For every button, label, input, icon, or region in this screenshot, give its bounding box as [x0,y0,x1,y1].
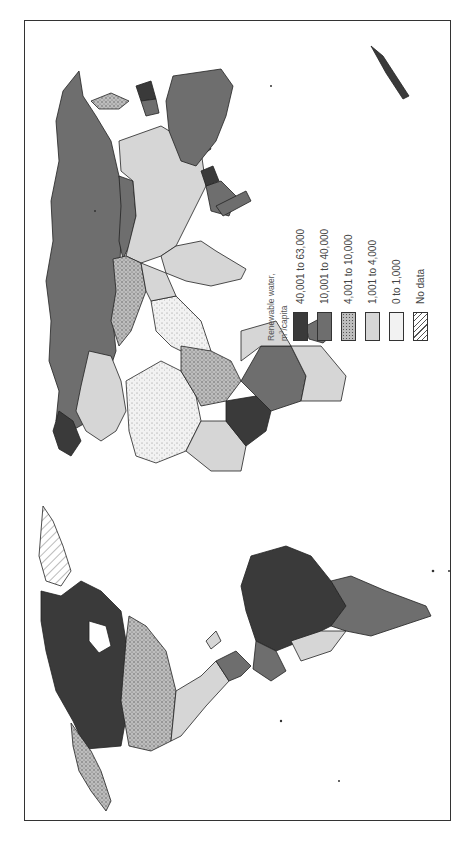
legend-swatch-darkest [293,312,308,341]
legend-item-10001-40000: 10,001 to 40,000 [316,191,332,341]
world-map [25,21,452,822]
legend-swatch-light-stipple [389,312,404,341]
legend-swatch-light [365,312,380,341]
island [280,720,282,722]
region-mexico [171,661,229,741]
legend-label: 0 to 1,000 [391,260,402,304]
island [432,570,435,573]
region-cuba [206,631,221,649]
legend-item-no-data: No data [412,191,428,341]
legend-label: No data [415,269,426,304]
legend-title-rest: /capita [279,306,289,331]
map-frame: Renewable water, m3/capita 40,001 to 63,… [24,20,451,821]
legend-item-1001-4000: 1,001 to 4,000 [364,191,380,341]
legend-swatch-hatch [413,312,428,341]
legend-label: 40,001 to 63,000 [295,229,306,304]
region-central-asia [111,256,146,346]
region-usa [121,616,176,751]
legend-item-40001-63000: 40,001 to 63,000 [292,191,308,341]
region-argentina [331,576,431,636]
island [448,570,450,572]
legend-swatch-dense-stipple [341,312,356,341]
legend-label: 1,001 to 4,000 [367,240,378,304]
legend-label: 10,001 to 40,000 [319,229,330,304]
legend-title: Renewable water, m3/capita [266,191,289,341]
legend-title-sup: 3 [278,331,284,334]
legend-item-4001-10000: 4,001 to 10,000 [340,191,356,341]
region-greenland [39,506,71,586]
region-japan [91,93,129,109]
region-papua [141,99,159,116]
region-philippines [136,81,156,101]
legend-swatch-dark [317,312,332,341]
legend-title-line1: Renewable water, [266,273,276,341]
island [94,210,96,212]
legend-title-unit: m [279,334,289,341]
legend-label: 4,001 to 10,000 [343,234,354,304]
region-india [161,241,246,286]
map-legend: Renewable water, m3/capita 40,001 to 63,… [266,191,436,341]
region-canada [41,581,129,749]
island [338,780,340,782]
island [270,85,272,87]
region-new-zealand [371,46,409,99]
legend-item-0-1000: 0 to 1,000 [388,191,404,341]
